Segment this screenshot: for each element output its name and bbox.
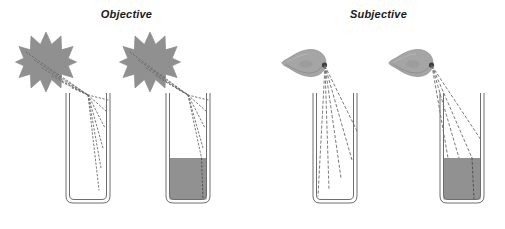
eye-icon	[282, 50, 327, 77]
starburst-icon	[120, 32, 181, 92]
liquid-fill	[170, 158, 207, 200]
scene-subjective-empty	[282, 50, 357, 204]
panel-title-objective: Objective	[0, 8, 253, 20]
sight-line-bundle	[318, 66, 357, 196]
sight-line-bundle	[432, 66, 481, 158]
liquid-fill	[444, 158, 481, 200]
beaker-empty	[66, 93, 110, 203]
scene-subjective-filled	[389, 50, 484, 204]
eye-pupil	[429, 62, 434, 67]
scene-objective-filled	[120, 32, 211, 203]
ray-bundle-diverging	[88, 95, 108, 190]
starburst-icon	[16, 32, 77, 92]
eye-pupil	[322, 62, 327, 67]
eye-icon	[389, 50, 434, 77]
optics-diagram: Objective Subjective	[0, 0, 505, 229]
ray-bundle-diverging	[188, 95, 208, 158]
beaker-empty	[313, 93, 357, 203]
diagram-canvas	[0, 0, 505, 229]
panel-title-subjective: Subjective	[252, 8, 505, 20]
scene-objective-empty	[16, 32, 111, 203]
